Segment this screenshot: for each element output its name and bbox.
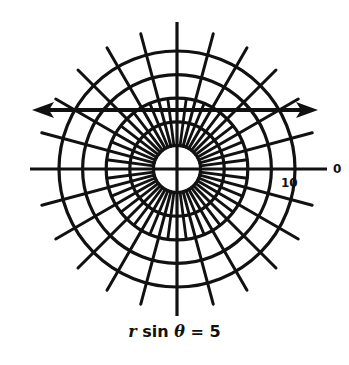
- radius-ten-label: 10: [281, 176, 298, 190]
- equation-caption: r sin θ = 5: [0, 322, 349, 341]
- caption-sin: sin: [137, 322, 175, 341]
- polar-diagram: 0 10 r sin θ = 5: [0, 0, 349, 365]
- radial-spoke: [78, 186, 160, 268]
- radial-spoke: [194, 186, 276, 268]
- caption-rest: = 5: [185, 322, 221, 341]
- caption-theta: θ: [174, 322, 185, 341]
- polar-grid-svg: 0 10: [0, 0, 349, 365]
- coordinate-axes: [30, 22, 327, 316]
- angle-zero-label: 0: [333, 162, 341, 176]
- caption-r: r: [128, 322, 136, 341]
